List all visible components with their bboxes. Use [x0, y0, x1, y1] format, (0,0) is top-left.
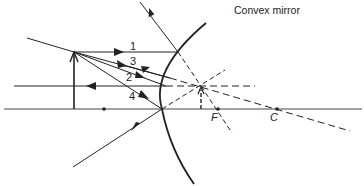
- ray-1-arrow-icon: [114, 48, 124, 56]
- ray-4-virtual: [162, 70, 225, 109]
- convex-mirror: [160, 23, 206, 184]
- ray-4-incident: [74, 52, 162, 109]
- focus-label: F: [211, 111, 219, 123]
- ray-2-reflected-arrow-icon: [86, 82, 96, 90]
- ray-3-label: 3: [130, 55, 136, 67]
- incident-ray-extension: [27, 38, 74, 52]
- ray-1-label: 1: [130, 40, 136, 52]
- ray-3-virtual-through-c: [170, 78, 350, 131]
- ray-3-arrow-icon: [117, 60, 127, 68]
- mirror-title: Convex mirror: [234, 4, 300, 16]
- ray-4-label: 4: [129, 90, 135, 102]
- ray-2-incident: [74, 52, 166, 86]
- center-label: C: [270, 111, 278, 123]
- ray-4-arrow-icon: [138, 90, 149, 99]
- axis-point: [102, 107, 106, 111]
- ray-1-reflected: [140, 2, 178, 52]
- convex-mirror-ray-diagram: Convex mirror 1 3 2 4 F C: [0, 0, 364, 186]
- ray-4-reflected-arrow-icon: [131, 122, 140, 131]
- ray-2-label: 2: [126, 71, 132, 83]
- ray-4-reflected: [73, 109, 162, 167]
